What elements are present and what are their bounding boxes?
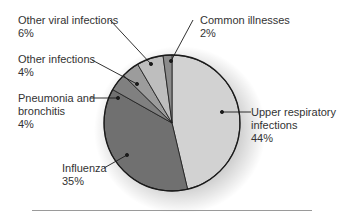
- label-influenza: Influenza 35%: [62, 162, 107, 188]
- label-other-infections: Other infections 4%: [18, 53, 95, 79]
- bottom-rule: [32, 210, 312, 211]
- pie-slices: [104, 55, 240, 191]
- label-common-illnesses: Common illnesses 2%: [200, 14, 290, 40]
- label-pneumonia: Pneumonia and bronchitis 4%: [18, 92, 95, 131]
- label-upper-respiratory: Upper respiratory infections 44%: [251, 106, 336, 145]
- label-other-viral: Other viral infections 6%: [18, 14, 118, 40]
